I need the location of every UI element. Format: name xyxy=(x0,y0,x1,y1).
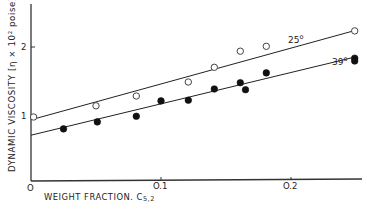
x-axis-line xyxy=(31,179,362,181)
filled-circle-marker xyxy=(211,86,218,93)
filled-circle-marker xyxy=(158,98,165,105)
y-tick-label-2: 2 xyxy=(21,42,26,52)
open-circle-marker xyxy=(133,93,139,99)
series-label-25: 25o xyxy=(288,33,303,45)
chart-plot-area xyxy=(0,0,367,212)
open-circle-marker xyxy=(211,64,217,70)
degree-symbol: o xyxy=(343,55,347,63)
filled-circle-marker xyxy=(133,113,140,120)
open-circle-marker xyxy=(93,103,99,109)
filled-circle-marker xyxy=(94,119,101,126)
y-axis-label: DYNAMIC VISCOSITY [η × 10² poise] xyxy=(7,22,19,172)
open-circle-marker xyxy=(185,79,191,85)
x-tick-label-0-1: O.1 xyxy=(153,181,167,191)
open-circle-marker xyxy=(30,114,36,120)
series-label-39: 39o xyxy=(332,55,347,67)
x-axis-label-subscript: 5,2 xyxy=(143,195,155,203)
filled-circle-marker xyxy=(185,97,192,104)
y-tick-label-1: 1 xyxy=(21,111,26,121)
degree-symbol: o xyxy=(299,33,303,41)
x-axis-label-main: WEIGHT FRACTION. C xyxy=(44,192,143,202)
x-tick-label-0: O xyxy=(27,183,34,193)
fit-line-25 xyxy=(31,30,356,120)
open-circle-marker xyxy=(352,28,358,34)
open-circle-marker xyxy=(237,48,243,54)
series-label-39-text: 39 xyxy=(332,57,343,67)
open-circle-marker xyxy=(263,43,269,49)
filled-circle-marker xyxy=(60,126,67,133)
x-axis-label: WEIGHT FRACTION. C5,2 xyxy=(44,192,155,203)
series-label-25-text: 25 xyxy=(288,35,299,45)
filled-circle-marker xyxy=(242,86,249,93)
filled-circle-marker xyxy=(263,70,270,77)
fit-line-39 xyxy=(31,57,356,135)
filled-circle-marker xyxy=(237,79,244,86)
fit-lines xyxy=(31,30,356,135)
filled-circle-marker xyxy=(351,58,358,65)
axes xyxy=(31,4,362,181)
x-tick-label-0-2: O.2 xyxy=(283,181,297,191)
